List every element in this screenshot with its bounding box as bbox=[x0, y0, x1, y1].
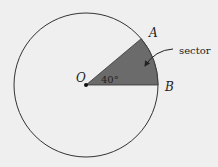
circle-sector-diagram: O A B 40° sector bbox=[0, 0, 218, 167]
point-b-label: B bbox=[164, 80, 174, 94]
center-label: O bbox=[76, 71, 86, 85]
angle-label: 40° bbox=[101, 74, 119, 85]
sector-shaded bbox=[86, 39, 158, 85]
point-a-label: A bbox=[148, 26, 158, 40]
sector-label: sector bbox=[179, 45, 211, 56]
